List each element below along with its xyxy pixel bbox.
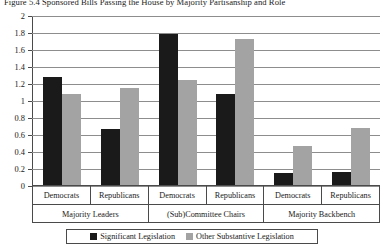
bar-pair [207, 16, 265, 185]
y-axis-tick-label: 1.4 [15, 63, 25, 72]
bar [351, 128, 370, 185]
legend-item: Significant Legislation [90, 232, 175, 241]
y-axis-tick [28, 152, 32, 153]
y-axis-tick-label: 0.6 [15, 131, 25, 140]
y-axis-tick [28, 16, 32, 17]
y-axis-tick [28, 33, 32, 34]
y-axis-tick-label: 0.4 [15, 148, 25, 157]
x-axis-party-label: Democrats [264, 186, 321, 204]
y-axis-tick [28, 101, 32, 102]
bar [101, 129, 120, 185]
y-axis-tick-label: 0.8 [15, 114, 25, 123]
bar-group [33, 16, 149, 185]
y-axis-tick-label: 0.2 [15, 165, 25, 174]
bar [43, 77, 62, 185]
bar-pair [264, 16, 322, 185]
x-axis-group-label: Majority Backbench [263, 205, 379, 223]
bar [216, 94, 235, 185]
legend-item: Other Substantive Legislation [186, 232, 294, 241]
y-axis-tick-label: 1.8 [15, 29, 25, 38]
bar [293, 146, 312, 185]
y-axis-tick-label: 1.6 [15, 46, 25, 55]
x-axis-labels: DemocratsRepublicansDemocratsRepublicans… [32, 186, 380, 223]
x-axis-group-label: (Sub)Committee Chairs [148, 205, 264, 223]
y-axis-tick-label: 1 [21, 97, 25, 106]
bar [62, 94, 81, 185]
y-axis-tick [28, 135, 32, 136]
bar [159, 34, 178, 185]
bar [178, 80, 197, 185]
chart-legend: Significant LegislationOther Substantive… [66, 229, 318, 244]
y-axis-tick [28, 118, 32, 119]
legend-label: Other Substantive Legislation [196, 232, 294, 241]
bar-pair [91, 16, 149, 185]
bar [120, 88, 139, 185]
bar [235, 39, 254, 185]
y-axis-tick [28, 67, 32, 68]
x-axis-group: DemocratsRepublicans [33, 186, 148, 204]
y-axis-tick [28, 169, 32, 170]
x-axis-group-label: Majority Leaders [33, 205, 148, 223]
y-axis-tick [28, 50, 32, 51]
figure-title: Figure 5.4 Sponsored Bills Passing the H… [4, 0, 382, 7]
bar-pair [149, 16, 207, 185]
x-axis-party-label: Republicans [90, 186, 148, 204]
x-axis-group: DemocratsRepublicans [263, 186, 379, 204]
legend-label: Significant Legislation [100, 232, 175, 241]
x-axis-party-label: Democrats [33, 186, 90, 204]
figure-container: Figure 5.4 Sponsored Bills Passing the H… [0, 0, 384, 250]
y-axis-tick-label: 0 [21, 182, 25, 191]
x-axis-party-row: DemocratsRepublicansDemocratsRepublicans… [33, 186, 379, 205]
bar-pair [33, 16, 91, 185]
bar-group [149, 16, 265, 185]
x-axis-party-label: Republicans [321, 186, 379, 204]
bar-series-layer [33, 16, 380, 185]
bar-pair [322, 16, 380, 185]
x-axis-party-label: Democrats [149, 186, 206, 204]
x-axis-party-label: Republicans [206, 186, 264, 204]
bar [332, 172, 351, 185]
y-axis-tick-label: 1.2 [15, 80, 25, 89]
x-axis-group: DemocratsRepublicans [148, 186, 264, 204]
bar [274, 173, 293, 185]
y-axis-tick [28, 84, 32, 85]
x-axis-group-row: Majority Leaders(Sub)Committee ChairsMaj… [33, 205, 379, 223]
bar-group [264, 16, 380, 185]
y-axis-tick-label: 2 [21, 12, 25, 21]
black-square-icon [90, 233, 97, 240]
gray-square-icon [186, 233, 193, 240]
plot-area: 21.81.61.41.210.80.60.40.20 [32, 16, 380, 186]
